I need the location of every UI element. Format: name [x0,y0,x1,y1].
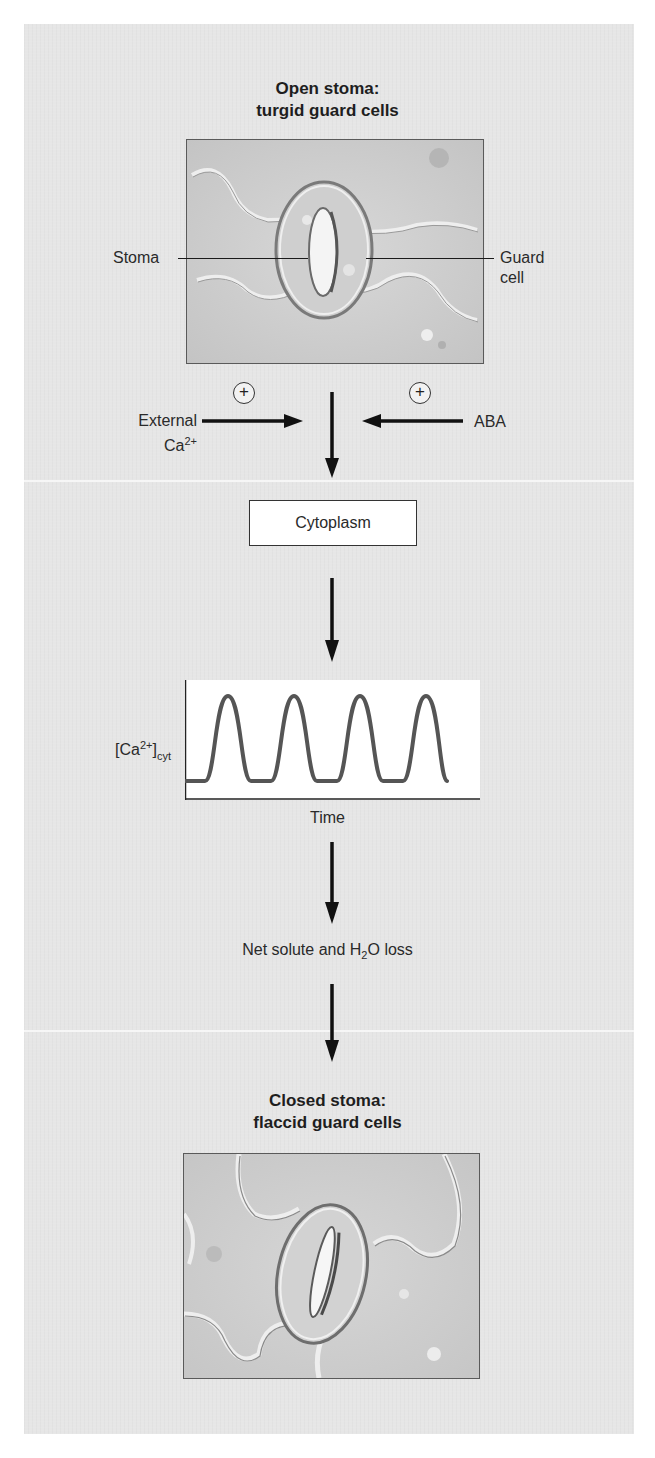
closed-stoma-title-line2: flaccid guard cells [0,1112,655,1134]
calcium-symbol: Ca [164,437,184,454]
loss-label-text: Net solute and H [242,941,361,958]
solute-water-loss-label: Net solute and H2O loss [0,940,655,965]
ylabel-bracket-open: [Ca [115,741,140,758]
aba-label: ABA [474,412,506,432]
cytoplasm-box: Cytoplasm [249,500,417,546]
guard-cell-leader-line [366,258,494,259]
down-arrow-icon [322,982,342,1066]
stoma-leader-line [178,258,308,259]
page-seam-divider [24,480,634,482]
external-calcium-label-line1: External [117,411,197,431]
closed-stoma-image-icon [184,1154,479,1378]
down-arrow-icon [322,576,342,664]
loss-label-text-end: O loss [367,941,412,958]
stoma-label: Stoma [113,248,159,268]
open-stoma-title-line1: Open stoma: [0,78,655,100]
left-arrow-icon [360,412,465,430]
guard-cell-label: Guard cell [500,248,544,288]
open-stoma-title-line2: turgid guard cells [0,100,655,122]
ylabel-charge: 2+ [140,739,153,751]
down-arrow-icon [322,390,342,480]
open-stoma-title: Open stoma: turgid guard cells [0,78,655,122]
down-arrow-icon [322,840,342,926]
external-calcium-label-line2: Ca2+ [117,431,197,456]
external-calcium-label: External Ca2+ [117,411,197,456]
graph-x-axis-label: Time [310,808,345,828]
graph-y-axis-label: [Ca2+]cyt [115,735,171,766]
calcium-charge: 2+ [184,435,197,447]
open-stoma-image-icon [187,140,483,363]
plus-stimulus-icon: + [233,382,255,404]
calcium-oscillation-graph [185,680,480,800]
closed-stoma-micrograph [183,1153,480,1379]
guard-cell-label-line1: Guard [500,248,544,268]
ylabel-subscript: cyt [157,750,171,762]
calcium-oscillation-plot [185,680,480,800]
closed-stoma-title: Closed stoma: flaccid guard cells [0,1090,655,1134]
guard-cell-label-line2: cell [500,268,544,288]
plus-stimulus-icon: + [409,382,431,404]
open-stoma-micrograph [186,139,484,364]
right-arrow-icon [200,412,305,430]
closed-stoma-title-line1: Closed stoma: [0,1090,655,1112]
